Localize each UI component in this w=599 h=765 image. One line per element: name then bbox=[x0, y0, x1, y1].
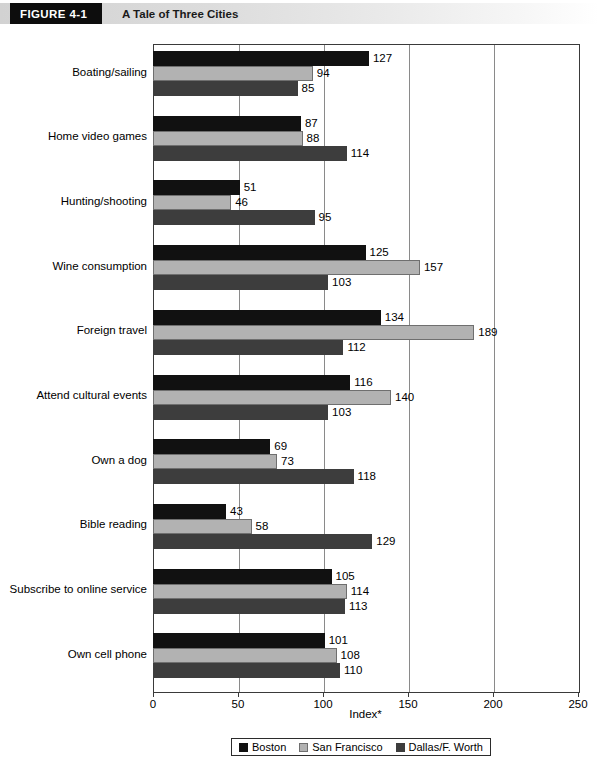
legend-item: San Francisco bbox=[299, 741, 382, 753]
bar-group: 125157103 bbox=[153, 245, 578, 290]
category-label: Home video games bbox=[1, 130, 153, 142]
x-axis-tick bbox=[408, 692, 409, 697]
bar-value-label: 108 bbox=[337, 647, 360, 663]
bar-value-label: 110 bbox=[340, 662, 362, 678]
bar-row: 129 bbox=[153, 534, 578, 549]
bar-group: 134189112 bbox=[153, 310, 578, 355]
bar bbox=[153, 663, 340, 678]
bar-row: 87 bbox=[153, 116, 578, 131]
bar bbox=[153, 375, 350, 390]
bar bbox=[153, 390, 391, 405]
bar-value-label: 113 bbox=[345, 598, 367, 614]
bar-row: 134 bbox=[153, 310, 578, 325]
bar bbox=[153, 195, 231, 210]
bar-value-label: 105 bbox=[332, 568, 355, 584]
bar-series-layer: 1279485878811451469512515710313418911211… bbox=[153, 44, 578, 691]
bar-value-label: 101 bbox=[325, 632, 348, 648]
bar-row: 112 bbox=[153, 340, 578, 355]
legend-label: Dallas/F. Worth bbox=[409, 741, 483, 753]
x-axis-tick bbox=[238, 692, 239, 697]
category-label: Foreign travel bbox=[1, 324, 153, 336]
bar-value-label: 88 bbox=[303, 130, 320, 146]
bar-row: 110 bbox=[153, 663, 578, 678]
bar-group: 4358129 bbox=[153, 504, 578, 549]
bar-row: 95 bbox=[153, 210, 578, 225]
legend-item: Dallas/F. Worth bbox=[396, 741, 483, 753]
bar bbox=[153, 66, 313, 81]
bar-value-label: 127 bbox=[369, 50, 392, 66]
bar-row: 85 bbox=[153, 81, 578, 96]
category-label: Hunting/shooting bbox=[1, 195, 153, 207]
bar bbox=[153, 210, 315, 225]
bar-row: 114 bbox=[153, 146, 578, 161]
bar bbox=[153, 454, 277, 469]
legend-swatch-icon bbox=[239, 743, 248, 752]
bar-row: 114 bbox=[153, 584, 578, 599]
bar-row: 103 bbox=[153, 275, 578, 290]
bar-group: 105114113 bbox=[153, 569, 578, 614]
bar-row: 46 bbox=[153, 195, 578, 210]
bar-row: 69 bbox=[153, 439, 578, 454]
bar-row: 116 bbox=[153, 375, 578, 390]
bar-value-label: 116 bbox=[350, 374, 372, 390]
bar bbox=[153, 504, 226, 519]
bar-value-label: 103 bbox=[328, 274, 351, 290]
bar-row: 113 bbox=[153, 599, 578, 614]
legend-item: Boston bbox=[239, 741, 286, 753]
bar bbox=[153, 599, 345, 614]
bar-row: 140 bbox=[153, 390, 578, 405]
x-axis-tick bbox=[153, 692, 154, 697]
x-axis-tick bbox=[323, 692, 324, 697]
figure-number-tag: FIGURE 4-1 bbox=[10, 3, 102, 24]
bar-value-label: 118 bbox=[354, 468, 376, 484]
chart-legend: BostonSan FranciscoDallas/F. Worth bbox=[231, 738, 491, 756]
bar-row: 43 bbox=[153, 504, 578, 519]
bar-group: 8788114 bbox=[153, 116, 578, 161]
bar-value-label: 94 bbox=[313, 65, 330, 81]
legend-label: San Francisco bbox=[312, 741, 382, 753]
bar bbox=[153, 569, 332, 584]
bar-value-label: 140 bbox=[391, 389, 414, 405]
bar bbox=[153, 584, 347, 599]
bar-row: 88 bbox=[153, 131, 578, 146]
bar bbox=[153, 245, 366, 260]
bar bbox=[153, 439, 270, 454]
bar-value-label: 112 bbox=[343, 339, 365, 355]
bar bbox=[153, 325, 474, 340]
bar bbox=[153, 340, 343, 355]
legend-label: Boston bbox=[252, 741, 286, 753]
bar-value-label: 69 bbox=[270, 438, 287, 454]
category-label: Bible reading bbox=[1, 518, 153, 530]
bar-row: 94 bbox=[153, 66, 578, 81]
bar-value-label: 46 bbox=[231, 194, 248, 210]
bar-value-label: 134 bbox=[381, 309, 404, 325]
bar bbox=[153, 116, 301, 131]
bar bbox=[153, 469, 354, 484]
category-axis-labels: Boating/sailingHome video gamesHunting/s… bbox=[0, 44, 153, 691]
bar bbox=[153, 519, 252, 534]
bar-value-label: 114 bbox=[347, 583, 369, 599]
bar-row: 105 bbox=[153, 569, 578, 584]
x-axis-tick bbox=[578, 692, 579, 697]
bar bbox=[153, 405, 328, 420]
bar-value-label: 114 bbox=[347, 145, 369, 161]
category-label: Own a dog bbox=[1, 454, 153, 466]
bar bbox=[153, 633, 325, 648]
bar-value-label: 51 bbox=[240, 179, 257, 195]
bar bbox=[153, 275, 328, 290]
bar bbox=[153, 310, 381, 325]
bar-row: 127 bbox=[153, 51, 578, 66]
bar-value-label: 103 bbox=[328, 404, 351, 420]
bar-group: 101108110 bbox=[153, 633, 578, 678]
bar-value-label: 125 bbox=[366, 244, 389, 260]
bar-value-label: 129 bbox=[372, 533, 395, 549]
bar-value-label: 157 bbox=[420, 259, 443, 275]
figure-title: A Tale of Three Cities bbox=[122, 3, 238, 24]
bar bbox=[153, 131, 303, 146]
category-label: Own cell phone bbox=[1, 648, 153, 660]
bar-value-label: 189 bbox=[474, 324, 497, 340]
bar bbox=[153, 534, 372, 549]
bar-value-label: 58 bbox=[252, 518, 269, 534]
category-label: Subscribe to online service bbox=[1, 583, 153, 595]
bar bbox=[153, 81, 298, 96]
